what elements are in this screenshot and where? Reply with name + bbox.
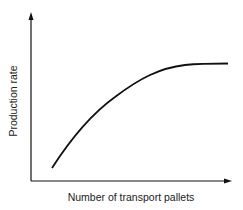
- production-rate-curve: [52, 64, 228, 169]
- y-axis: [29, 12, 34, 181]
- x-axis: [31, 179, 232, 184]
- y-axis-label: Production rate: [7, 46, 19, 156]
- y-axis-arrow-icon: [29, 12, 34, 20]
- chart-canvas: [0, 0, 243, 210]
- x-axis-arrow-icon: [224, 179, 232, 184]
- x-axis-label: Number of transport pallets: [31, 191, 231, 203]
